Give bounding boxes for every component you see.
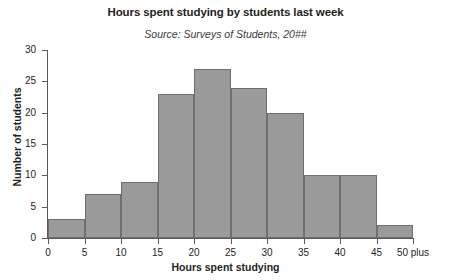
histogram-bar	[85, 194, 122, 238]
histogram-bar	[340, 175, 377, 238]
x-axis-title: Hours spent studying	[0, 261, 451, 273]
histogram-bar	[194, 69, 231, 238]
y-tick	[42, 175, 47, 176]
x-tick	[121, 239, 122, 244]
x-tick	[340, 239, 341, 244]
y-tick	[42, 113, 47, 114]
histogram-bar	[377, 225, 414, 238]
x-tick	[304, 239, 305, 244]
x-tick	[267, 239, 268, 244]
x-tick	[194, 239, 195, 244]
y-tick	[42, 81, 47, 82]
histogram-bar	[231, 88, 268, 238]
histogram-bar	[158, 94, 195, 238]
x-tick	[413, 239, 414, 244]
histogram-bar	[267, 113, 304, 238]
y-tick	[42, 238, 47, 239]
y-tick-label: 0	[6, 233, 36, 243]
histogram-chart: Hours spent studying by students last we…	[0, 0, 451, 280]
y-tick	[42, 207, 47, 208]
histogram-bar	[121, 182, 158, 238]
chart-subtitle: Source: Surveys of Students, 20##	[0, 28, 451, 40]
y-tick	[42, 50, 47, 51]
y-tick	[42, 144, 47, 145]
x-tick	[85, 239, 86, 244]
y-axis-title: Number of students	[11, 62, 23, 212]
plot-area	[48, 50, 413, 238]
x-tick	[48, 239, 49, 244]
x-tick	[377, 239, 378, 244]
x-tick-label: 50 plus	[383, 247, 443, 258]
x-tick	[158, 239, 159, 244]
histogram-bar	[48, 219, 85, 238]
chart-title: Hours spent studying by students last we…	[0, 6, 451, 18]
x-tick	[231, 239, 232, 244]
histogram-bar	[304, 175, 341, 238]
y-tick-label: 30	[6, 45, 36, 55]
